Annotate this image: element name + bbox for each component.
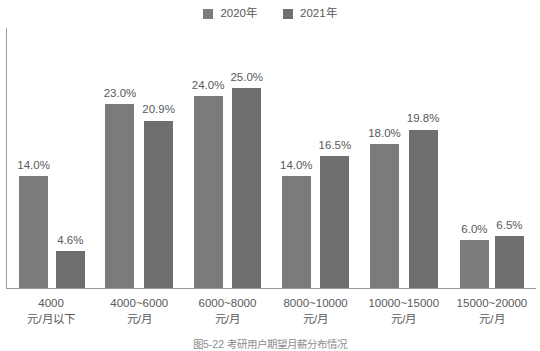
bar[interactable] <box>282 176 311 288</box>
bar-groups: 14.0%4.6%23.0%20.9%24.0%25.0%14.0%16.5%1… <box>7 26 536 288</box>
bar-item[interactable]: 24.0% <box>192 26 225 288</box>
bar-value-label: 20.9% <box>142 104 175 116</box>
bar-item[interactable]: 6.5% <box>495 26 524 288</box>
x-axis-tick-label: 10000~15000元/月 <box>360 296 448 327</box>
bar-item[interactable]: 19.8% <box>407 26 440 288</box>
bar-value-label: 23.0% <box>104 88 137 100</box>
bar-group: 18.0%19.8% <box>360 26 448 288</box>
bar-value-label: 6.5% <box>496 220 522 232</box>
bar-value-label: 18.0% <box>368 128 401 140</box>
bar-item[interactable]: 18.0% <box>368 26 401 288</box>
bar-value-label: 4.6% <box>57 235 83 247</box>
bar[interactable] <box>495 236 524 288</box>
bar-item[interactable]: 4.6% <box>56 26 85 288</box>
x-axis-tick-label: 8000~10000元/月 <box>272 296 360 327</box>
x-axis-tick-label-line: 元/月 <box>183 312 271 328</box>
bar-item[interactable]: 25.0% <box>230 26 263 288</box>
x-axis-tick-label-line: 元/月 <box>360 312 448 328</box>
x-axis-tick-label-line: 15000~20000 <box>448 296 536 312</box>
bar-value-label: 14.0% <box>17 160 50 172</box>
bar-item[interactable]: 16.5% <box>319 26 352 288</box>
legend-label-2020: 2020年 <box>220 8 257 20</box>
x-axis-tick-label-line: 元/月以下 <box>7 312 95 328</box>
chart-legend: 2020年 2021年 <box>0 6 540 22</box>
bar[interactable] <box>56 251 85 288</box>
square-marker-icon <box>203 9 213 19</box>
bar-item[interactable]: 6.0% <box>460 26 489 288</box>
bar[interactable] <box>19 176 48 288</box>
x-axis-tick-label-line: 6000~8000 <box>183 296 271 312</box>
legend-label-2021: 2021年 <box>300 8 337 20</box>
bar[interactable] <box>194 96 223 288</box>
x-axis-line <box>6 288 536 289</box>
bar-item[interactable]: 14.0% <box>17 26 50 288</box>
bar[interactable] <box>232 88 261 288</box>
legend-entry-2021: 2021年 <box>283 8 337 20</box>
bar-item[interactable]: 20.9% <box>142 26 175 288</box>
x-axis-tick-labels: 4000元/月以下4000~6000元/月6000~8000元/月8000~10… <box>7 296 536 327</box>
x-axis-tick-label-line: 8000~10000 <box>272 296 360 312</box>
legend-entry-2020: 2020年 <box>203 8 257 20</box>
bar-group: 23.0%20.9% <box>95 26 183 288</box>
bar-value-label: 14.0% <box>280 160 313 172</box>
figure-caption: 图5-22 考研用户期望月薪分布情况 <box>0 338 540 351</box>
bar-value-label: 16.5% <box>319 140 352 152</box>
x-axis-tick-label-line: 元/月 <box>95 312 183 328</box>
x-axis-tick-label: 15000~20000元/月 <box>448 296 536 327</box>
bar[interactable] <box>105 104 134 288</box>
x-axis-tick-label-line: 元/月 <box>272 312 360 328</box>
bar[interactable] <box>409 130 438 288</box>
bar-value-label: 24.0% <box>192 80 225 92</box>
x-axis-tick-label-line: 4000 <box>7 296 95 312</box>
bar-value-label: 19.8% <box>407 113 440 125</box>
bar-group: 6.0%6.5% <box>448 26 536 288</box>
x-axis-tick-label: 4000~6000元/月 <box>95 296 183 327</box>
bar[interactable] <box>460 240 489 288</box>
bar-group: 14.0%16.5% <box>272 26 360 288</box>
bar[interactable] <box>370 144 399 288</box>
bar-item[interactable]: 23.0% <box>104 26 137 288</box>
x-axis-tick-label-line: 元/月 <box>448 312 536 328</box>
bar[interactable] <box>320 156 349 288</box>
x-axis-tick-label: 4000元/月以下 <box>7 296 95 327</box>
bar-group: 24.0%25.0% <box>183 26 271 288</box>
bar-item[interactable]: 14.0% <box>280 26 313 288</box>
x-axis-tick-label-line: 4000~6000 <box>95 296 183 312</box>
bar[interactable] <box>144 121 173 288</box>
bar-value-label: 6.0% <box>461 224 487 236</box>
x-axis-tick-label-line: 10000~15000 <box>360 296 448 312</box>
x-axis-tick-label: 6000~8000元/月 <box>183 296 271 327</box>
square-marker-icon <box>283 9 293 19</box>
bar-value-label: 25.0% <box>230 72 263 84</box>
bar-group: 14.0%4.6% <box>7 26 95 288</box>
plot-area: 14.0%4.6%23.0%20.9%24.0%25.0%14.0%16.5%1… <box>0 26 540 289</box>
